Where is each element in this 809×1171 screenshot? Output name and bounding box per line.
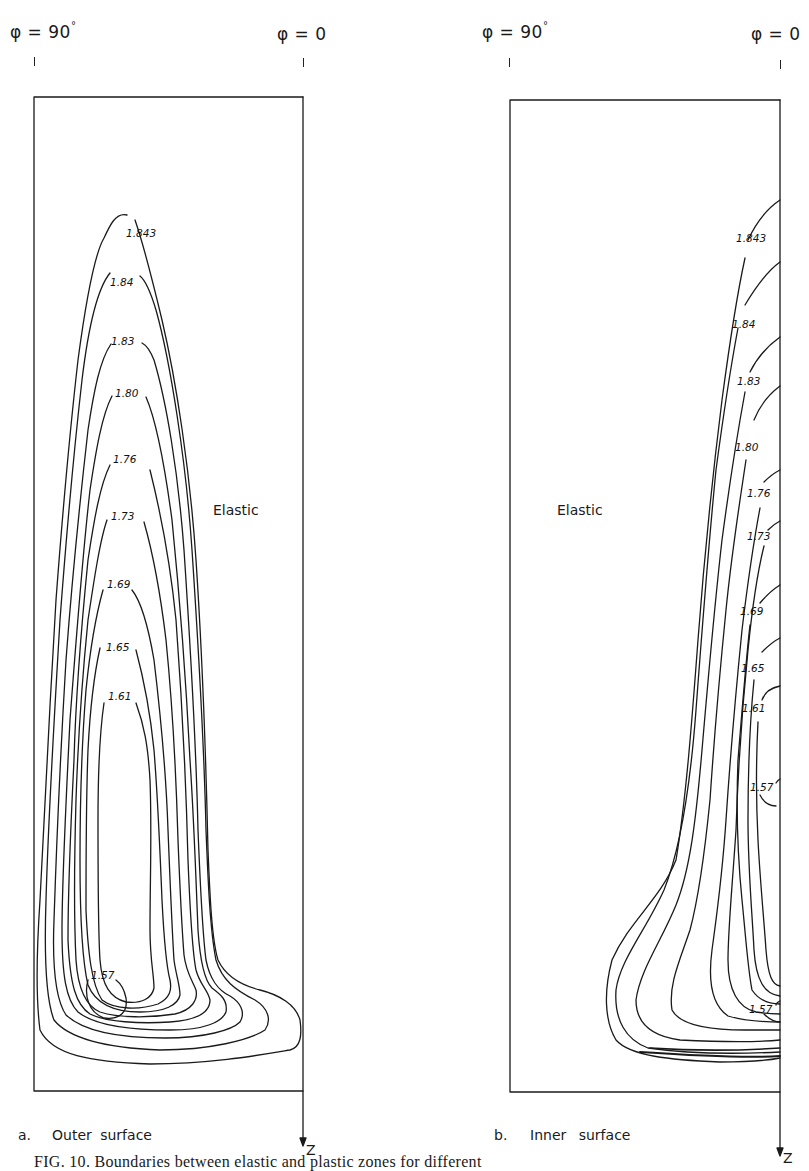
contour-label: 1.73 — [747, 530, 770, 542]
panel-a-elastic-label: Elastic — [213, 502, 259, 518]
contour-label: 1.76 — [747, 487, 771, 499]
panel-a-subtitle: Outer surface — [52, 1127, 152, 1143]
contour-label: 1.80 — [735, 441, 759, 453]
panel-a-contours — [37, 215, 301, 1064]
panel-b-sublabel: b. — [494, 1127, 507, 1143]
contour-label: 1.76 — [113, 453, 137, 465]
panel-a-sublabel: a. — [18, 1127, 31, 1143]
contour-label: 1.843 — [126, 227, 156, 239]
contour-label: 1.65 — [106, 641, 130, 653]
contour-label: 1.80 — [115, 387, 139, 399]
contour-label: 1.57 — [749, 1003, 773, 1015]
panel-b-subtitle: Inner surface — [530, 1127, 630, 1143]
contour-label: 1.61 — [742, 702, 765, 714]
contour-label: 1.61 — [108, 690, 131, 702]
contour-label: 1.84 — [110, 276, 133, 288]
contour-label: 1.69 — [107, 578, 131, 590]
contour-label: 1.73 — [111, 510, 134, 522]
panel-b-contour-labels: 1.843 1.84 1.83 1.80 1.76 1.73 1.69 1.65… — [732, 232, 774, 1015]
contour-label: 1.69 — [740, 605, 764, 617]
contour-label: 1.83 — [737, 375, 760, 387]
contour-label: 1.65 — [741, 662, 765, 674]
figure-caption: FIG. 10. Boundaries between elastic and … — [34, 1153, 482, 1171]
panel-b-elastic-label: Elastic — [557, 502, 603, 518]
contour-label: 1.83 — [111, 335, 134, 347]
panel-a-contour-labels: 1.843 1.84 1.83 1.80 1.76 1.73 1.69 1.65… — [91, 227, 156, 981]
contour-label: 1.57 — [750, 781, 774, 793]
contour-label: 1.843 — [736, 232, 766, 244]
contour-label: 1.57 — [91, 969, 115, 981]
contour-label: 1.84 — [732, 318, 755, 330]
panel-b-z-label: Z — [783, 1150, 793, 1166]
